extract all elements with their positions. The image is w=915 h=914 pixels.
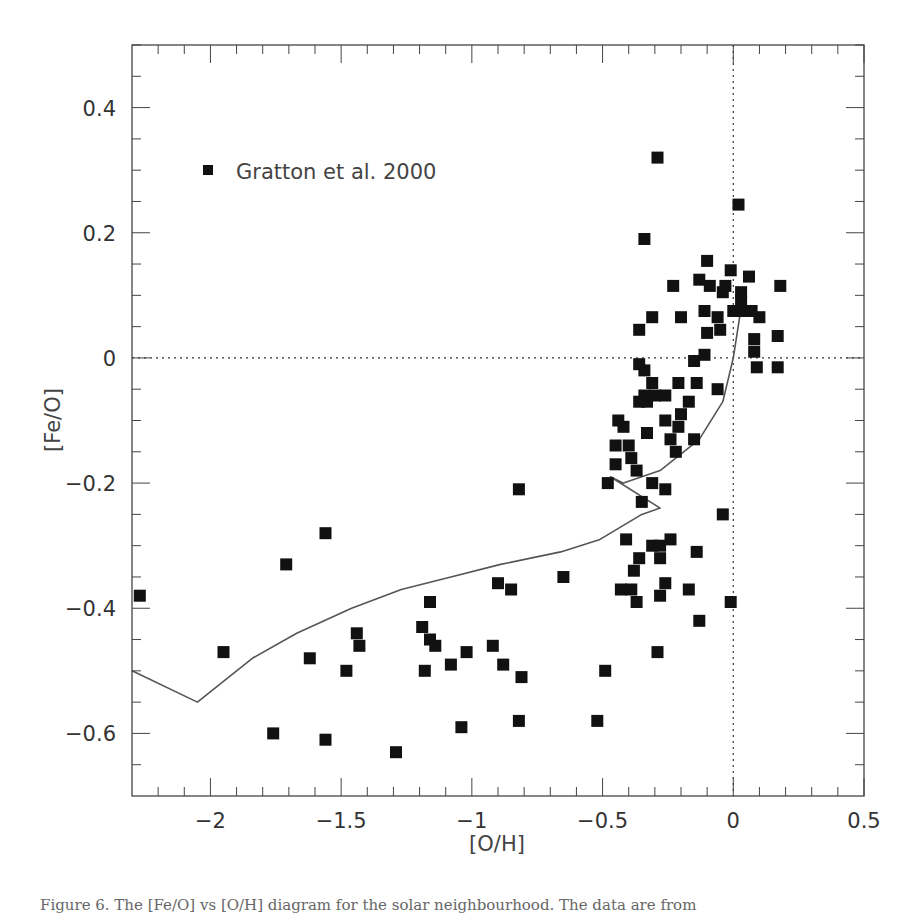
data-point-square	[712, 383, 724, 395]
data-point-square	[659, 390, 671, 402]
data-point-square	[631, 596, 643, 608]
data-point-square	[774, 280, 786, 292]
data-point-square	[719, 280, 731, 292]
data-point-square	[280, 558, 292, 570]
y-tick-label: −0.6	[65, 722, 116, 746]
data-point-square	[625, 452, 637, 464]
legend: Gratton et al. 2000	[203, 160, 436, 184]
data-point-square	[641, 427, 653, 439]
y-tick-label: −0.2	[65, 472, 116, 496]
data-point-square	[646, 477, 658, 489]
data-point-square	[492, 577, 504, 589]
data-point-square	[667, 280, 679, 292]
data-point-square	[688, 433, 700, 445]
data-point-square	[672, 377, 684, 389]
data-point-square	[419, 665, 431, 677]
data-point-square	[714, 324, 726, 336]
data-point-square	[320, 734, 332, 746]
data-point-square	[610, 440, 622, 452]
data-point-square	[267, 727, 279, 739]
reference-lines	[132, 45, 864, 796]
data-point-square	[652, 152, 664, 164]
data-point-square	[618, 421, 630, 433]
data-markers	[134, 152, 787, 759]
legend-marker-square	[203, 165, 213, 175]
data-point-square	[748, 346, 760, 358]
x-tick-label: −0.5	[577, 809, 628, 833]
y-tick-label: −0.4	[65, 597, 116, 621]
data-point-square	[683, 584, 695, 596]
data-point-square	[461, 646, 473, 658]
data-point-square	[623, 440, 635, 452]
data-point-square	[455, 721, 467, 733]
data-point-square	[487, 640, 499, 652]
x-tick-label: 0.5	[847, 809, 880, 833]
data-point-square	[699, 349, 711, 361]
data-point-square	[675, 408, 687, 420]
data-point-square	[513, 483, 525, 495]
data-point-square	[638, 390, 650, 402]
x-tick-label: −2	[195, 809, 226, 833]
legend-label: Gratton et al. 2000	[236, 160, 436, 184]
data-point-square	[638, 364, 650, 376]
data-point-square	[672, 421, 684, 433]
x-axis-title: [O/H]	[469, 832, 525, 856]
figure-caption: Figure 6. The [Fe/O] vs [O/H] diagram fo…	[40, 896, 900, 914]
plot-frame	[132, 45, 864, 796]
data-point-square	[670, 446, 682, 458]
data-point-square	[693, 274, 705, 286]
data-point-square	[746, 305, 758, 317]
data-point-square	[659, 483, 671, 495]
data-point-square	[659, 415, 671, 427]
data-point-square	[424, 596, 436, 608]
data-point-square	[725, 596, 737, 608]
data-point-square	[654, 590, 666, 602]
data-point-square	[638, 233, 650, 245]
data-point-square	[772, 330, 784, 342]
data-point-square	[429, 640, 441, 652]
data-point-square	[748, 333, 760, 345]
data-point-square	[652, 646, 664, 658]
data-point-square	[665, 433, 677, 445]
data-point-square	[646, 311, 658, 323]
data-point-square	[691, 377, 703, 389]
data-point-square	[699, 305, 711, 317]
data-point-square	[620, 533, 632, 545]
data-point-square	[735, 286, 747, 298]
data-point-square	[659, 577, 671, 589]
data-point-square	[751, 361, 763, 373]
data-point-square	[631, 465, 643, 477]
data-point-square	[633, 324, 645, 336]
data-point-square	[654, 540, 666, 552]
data-point-square	[513, 715, 525, 727]
data-point-square	[636, 496, 648, 508]
y-tick-label: 0	[103, 347, 116, 371]
data-point-square	[599, 665, 611, 677]
x-tick-label: −1.5	[316, 809, 367, 833]
data-point-square	[304, 652, 316, 664]
y-tick-label: 0.4	[83, 97, 116, 121]
data-point-square	[675, 311, 687, 323]
data-point-square	[615, 584, 627, 596]
data-point-square	[704, 280, 716, 292]
axes: −2−1.5−1−0.500.5−0.6−0.4−0.200.20.4	[65, 45, 881, 833]
y-axis-title: [Fe/O]	[41, 388, 65, 452]
data-point-square	[665, 533, 677, 545]
data-point-square	[340, 665, 352, 677]
data-point-square	[416, 621, 428, 633]
data-point-square	[390, 746, 402, 758]
y-tick-label: 0.2	[83, 222, 116, 246]
data-point-square	[134, 590, 146, 602]
data-point-square	[218, 646, 230, 658]
data-point-square	[683, 396, 695, 408]
data-point-square	[649, 390, 661, 402]
data-point-square	[725, 264, 737, 276]
data-point-square	[320, 527, 332, 539]
data-point-square	[516, 671, 528, 683]
x-tick-label: −1	[456, 809, 487, 833]
data-point-square	[633, 552, 645, 564]
data-point-square	[733, 199, 745, 211]
data-point-square	[688, 355, 700, 367]
data-point-square	[654, 552, 666, 564]
